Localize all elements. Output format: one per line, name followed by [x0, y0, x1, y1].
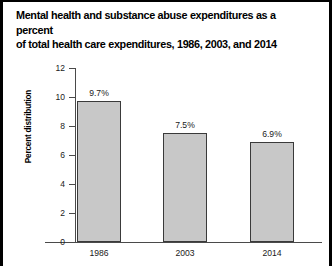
y-tick-label: 2 — [25, 208, 65, 218]
x-axis-category-label: 1986 — [64, 248, 134, 258]
bar-value-label: 7.5% — [150, 120, 220, 130]
chart-figure: Mental health and substance abuse expend… — [0, 0, 332, 266]
bar — [77, 101, 121, 242]
y-tick-label: 6 — [25, 150, 65, 160]
y-tick-label: 10 — [25, 92, 65, 102]
y-tick-label: 4 — [25, 179, 65, 189]
y-tick-mark — [69, 184, 75, 185]
y-tick-mark — [69, 242, 75, 243]
x-axis-line — [45, 242, 322, 243]
y-tick-mark — [69, 126, 75, 127]
y-tick-label: 0 — [25, 237, 65, 247]
y-tick-mark — [69, 68, 75, 69]
plot-area: Percent distribution 024681012 9.7%7.5%6… — [3, 2, 332, 266]
y-tick-label: 8 — [25, 121, 65, 131]
bar-value-label: 9.7% — [64, 88, 134, 98]
bar — [250, 142, 294, 242]
x-axis-category-label: 2003 — [150, 248, 220, 258]
bar — [163, 133, 207, 242]
x-axis-category-label: 2014 — [237, 248, 307, 258]
y-tick-label: 12 — [25, 63, 65, 73]
y-tick-mark — [69, 155, 75, 156]
bar-value-label: 6.9% — [237, 129, 307, 139]
y-tick-mark — [69, 213, 75, 214]
